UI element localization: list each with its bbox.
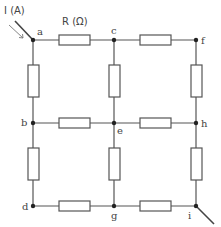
resistance-label: R (Ω) [62, 16, 88, 27]
resistor-b-d [28, 148, 39, 180]
resistor-d-g [59, 201, 90, 211]
resistor-e-h [140, 118, 171, 128]
resistor-b-e [59, 118, 90, 128]
node-d-dot [31, 204, 35, 208]
node-label-h: h [201, 118, 208, 129]
node-e-dot [112, 121, 116, 125]
circuit-diagram: I (A) R (Ω) a c f b e h d g i [0, 0, 221, 227]
node-i-dot [194, 204, 198, 208]
resistor-a-b [28, 65, 39, 97]
resistor-g-i [140, 201, 171, 211]
node-label-f: f [201, 35, 206, 46]
node-h-dot [194, 121, 198, 125]
output-lead-wire [196, 206, 214, 224]
node-label-b: b [21, 117, 27, 128]
resistor-e-g [109, 148, 120, 180]
resistor-h-i [191, 148, 202, 180]
resistor-c-f [140, 35, 171, 45]
input-lead-wire [15, 21, 33, 40]
node-b-dot [31, 121, 35, 125]
node-a-dot [31, 38, 35, 42]
node-label-i: i [188, 210, 191, 221]
resistor-f-h [191, 65, 202, 97]
resistor-c-e [109, 65, 120, 97]
current-label: I (A) [4, 5, 25, 16]
node-label-d: d [22, 201, 29, 212]
node-f-dot [194, 38, 198, 42]
resistor-a-c [59, 35, 90, 45]
node-label-c: c [111, 25, 117, 36]
node-c-dot [112, 38, 116, 42]
node-label-g: g [111, 210, 118, 221]
node-g-dot [112, 204, 116, 208]
node-label-e: e [117, 125, 123, 136]
node-label-a: a [37, 26, 43, 37]
